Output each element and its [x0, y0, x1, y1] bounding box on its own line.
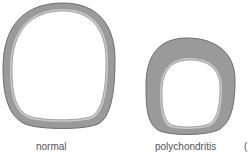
normal-label: normal: [36, 141, 67, 152]
normal-airway-ring: [3, 3, 115, 129]
polychondritis-airway-ring: [146, 38, 235, 135]
diagram-canvas: [0, 0, 250, 160]
cropped-label: (: [244, 141, 247, 152]
polychondritis-label: polychondritis: [155, 141, 216, 152]
